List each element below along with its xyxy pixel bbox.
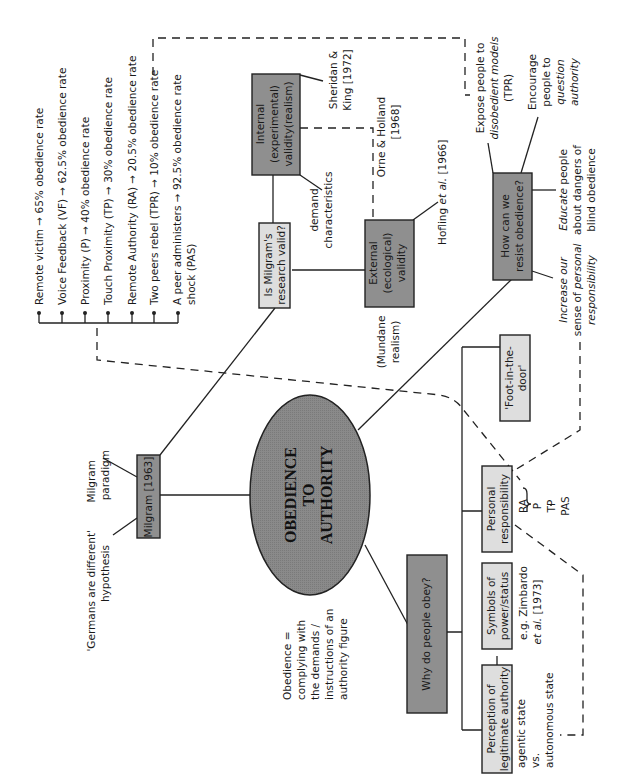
note-line: question bbox=[554, 59, 566, 104]
node-line: validity bbox=[395, 244, 407, 282]
node-line: Internal bbox=[254, 104, 266, 144]
line-resist-to-encourage bbox=[521, 117, 538, 173]
external-validity-node: External (ecological) validity bbox=[365, 220, 414, 307]
note-line: hypothesis bbox=[99, 545, 111, 602]
node-line: External bbox=[367, 241, 379, 285]
node-line: (experimental) bbox=[268, 85, 280, 163]
ref-label: RA bbox=[517, 498, 529, 513]
perception-authority-node: Perception of legitimate authority bbox=[482, 665, 512, 773]
note-text: people bbox=[557, 149, 569, 188]
milgram-paradigm-note: Milgram paradigm bbox=[85, 450, 111, 503]
note-line: Increase our bbox=[557, 257, 569, 323]
definition-line: Obedience = bbox=[281, 632, 293, 700]
note-line: blind obedience bbox=[585, 148, 597, 232]
dashed-link-tpr-to-expose bbox=[153, 38, 470, 95]
variation-item: Touch Proximity (TP) → 30% obedience rat… bbox=[102, 77, 114, 306]
node-line: (ecological) bbox=[381, 233, 393, 294]
line-milgram-to-germans bbox=[113, 518, 137, 535]
variation-item: Proximity (P) → 40% obedience rate bbox=[79, 117, 91, 305]
note-line: Expose people to bbox=[474, 43, 486, 134]
note-line: responsibility bbox=[585, 254, 597, 325]
note-line: Milgram bbox=[85, 460, 97, 503]
resist-obedience-node: How can we resist obedience? bbox=[493, 173, 532, 280]
variations-list: Remote victim → 65% obedience rate Voice… bbox=[33, 56, 197, 306]
note-line: Orne & Holland bbox=[375, 97, 387, 177]
increase-responsibility-note: Increase our sense of personal responsib… bbox=[557, 244, 597, 337]
definition-line: authority figure bbox=[337, 618, 349, 700]
line-milgram-to-valid bbox=[160, 308, 275, 455]
central-node-line: OBEDIENCE bbox=[282, 447, 299, 543]
personal-refs: RA P TP PAS bbox=[517, 496, 571, 516]
variation-item: Voice Feedback (VF) → 62.5% obedience ra… bbox=[56, 68, 68, 305]
note-line: authority bbox=[568, 57, 580, 106]
svg-text:Educate people: Educate people bbox=[557, 149, 569, 231]
node-line: validity(realism) bbox=[282, 81, 294, 166]
milgram-label: Milgram [1963] bbox=[142, 457, 154, 538]
line-resist-to-increase bbox=[532, 271, 553, 278]
note-line: e.g. Zimbardo bbox=[517, 566, 529, 640]
germans-hypothesis-note: 'Germans are different' hypothesis bbox=[85, 530, 111, 652]
definition-line: instructions of an bbox=[323, 609, 335, 700]
note-text: et al. bbox=[531, 618, 543, 645]
central-node-line: TO bbox=[300, 484, 317, 507]
mundane-realism-note: (Mundane realism) bbox=[375, 316, 401, 369]
node-line: Personal bbox=[485, 487, 497, 532]
note-line: (TPR) bbox=[502, 74, 514, 102]
definition-line: the demands / bbox=[309, 624, 321, 700]
expose-models-note: Expose people to disobedient models (TPR… bbox=[474, 36, 514, 139]
note-line: Encourage bbox=[526, 54, 538, 110]
node-line: research valid? bbox=[275, 225, 287, 304]
variation-item: Remote Authority (RA) → 20.5% obedience … bbox=[126, 56, 138, 305]
sheridan-king-note: Sheridan & King [1972] bbox=[327, 49, 353, 110]
educate-dangers-note: Educate people about dangers of blind ob… bbox=[557, 145, 597, 235]
note-text: Educate bbox=[557, 188, 569, 231]
note-line: vs. bbox=[529, 753, 541, 768]
node-line: 'Foot-in-the- bbox=[503, 346, 515, 410]
central-node-line: AUTHORITY bbox=[318, 445, 335, 544]
note-line: demand bbox=[308, 188, 320, 231]
note-line: King [1972] bbox=[341, 49, 353, 110]
line-external-to-hofling bbox=[413, 202, 438, 220]
line-resist-to-expose bbox=[488, 143, 493, 173]
variation-item-continued: shock (PAS) bbox=[185, 244, 197, 305]
hofling-note: Hofling et al. [1966] bbox=[436, 140, 448, 245]
variation-item: A peer administers → 92.5% obedience rat… bbox=[171, 74, 183, 305]
ref-label: TP bbox=[545, 500, 557, 514]
svg-text:et al. [1973]: et al. [1973] bbox=[531, 580, 543, 645]
line-center-to-why bbox=[365, 545, 408, 625]
ref-label: PAS bbox=[559, 496, 571, 516]
validity-question-node: Is Milgram's research valid? bbox=[259, 223, 290, 308]
node-line: Symbols of bbox=[485, 577, 497, 635]
svg-text:sense of personal: sense of personal bbox=[571, 244, 583, 337]
note-line: paradigm bbox=[99, 450, 111, 500]
obedience-definition: Obedience = complying with the demands /… bbox=[281, 609, 349, 700]
note-line: [1968] bbox=[389, 105, 401, 140]
note-line: Sheridan & bbox=[327, 51, 339, 109]
node-line: Perception of bbox=[485, 684, 497, 753]
node-line: Is Milgram's bbox=[262, 234, 274, 297]
node-line: legitimate authority bbox=[498, 667, 510, 771]
note-text: personal bbox=[571, 244, 583, 290]
note-line: autonomous state bbox=[543, 673, 555, 768]
variations-bracket bbox=[37, 311, 180, 323]
variation-item: Two peers rebel (TPR) → 10% obedience ra… bbox=[148, 70, 160, 306]
node-line: door' bbox=[516, 365, 528, 392]
obedience-mind-map: Remote victim → 65% obedience rate Voice… bbox=[0, 0, 637, 779]
node-line: responsibility bbox=[498, 474, 510, 544]
note-text: [1973] bbox=[531, 580, 543, 618]
note-line: people to bbox=[540, 57, 552, 106]
node-line: Why do people obey? bbox=[420, 577, 432, 690]
line-internal-to-sheridan bbox=[300, 75, 323, 81]
note-line: disobedient models bbox=[488, 36, 500, 139]
zimbardo-note: e.g. Zimbardo et al. [1973] bbox=[517, 566, 543, 644]
foot-in-door-node: 'Foot-in-the- door' bbox=[500, 335, 530, 421]
note-line: agentic state bbox=[515, 699, 527, 768]
why-obey-node: Why do people obey? bbox=[407, 555, 447, 713]
note-line: (Mundane bbox=[375, 316, 387, 369]
ref-label: P bbox=[531, 503, 543, 509]
definition-line: complying with bbox=[295, 620, 307, 700]
line-internal-to-demand bbox=[300, 175, 322, 190]
internal-validity-node: Internal (experimental) validity(realism… bbox=[252, 74, 300, 175]
note-line: realism) bbox=[389, 321, 401, 364]
node-line: resist obedience? bbox=[513, 180, 525, 272]
